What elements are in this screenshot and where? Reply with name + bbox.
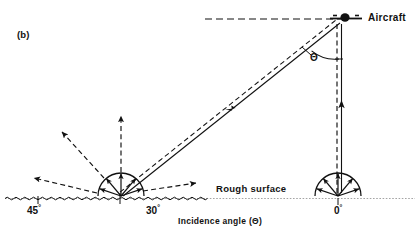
aircraft-label: Aircraft bbox=[368, 13, 406, 23]
lobe-30-dashed-rays bbox=[34, 116, 196, 193]
lobe-0-arrows bbox=[317, 174, 359, 196]
panel-label: (b) bbox=[17, 30, 30, 40]
incidence-angle-caption: Incidence angle (Θ) bbox=[178, 217, 262, 226]
tick-label-30-value: 30 bbox=[146, 205, 157, 216]
figure-canvas: (b) Aircraft Θ Rough surface 45° 30° 0° … bbox=[0, 0, 418, 236]
scatter-lobe-0deg bbox=[315, 173, 361, 196]
tick-label-45-degree: ° bbox=[38, 204, 41, 211]
tick-label-0: 0° bbox=[334, 206, 342, 216]
tick-label-0-degree: ° bbox=[340, 204, 343, 211]
tick-label-45-value: 45 bbox=[27, 205, 38, 216]
scatter-lobe-30deg bbox=[34, 116, 196, 196]
tick-label-30-degree: ° bbox=[157, 204, 160, 211]
theta-label: Θ bbox=[310, 53, 318, 63]
lobe-30-arrows bbox=[100, 174, 142, 196]
tick-label-45: 45° bbox=[27, 206, 41, 216]
slant-path bbox=[120, 19, 340, 196]
rough-surface-ground-line bbox=[5, 197, 415, 200]
tick-label-30: 30° bbox=[146, 206, 160, 216]
nadir-path bbox=[337, 24, 345, 193]
rough-surface-label: Rough surface bbox=[216, 184, 286, 194]
diagram-svg bbox=[0, 0, 418, 236]
